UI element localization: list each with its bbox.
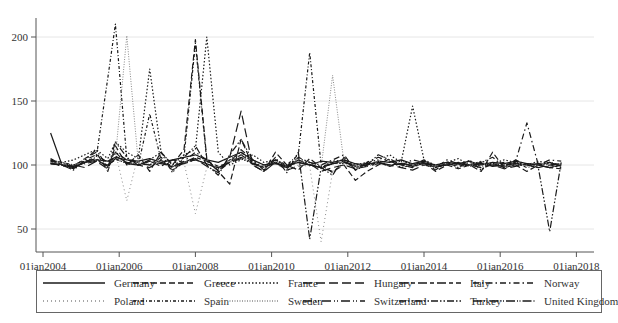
- line-swatch-fine-dot-icon: [217, 296, 279, 306]
- line-chart: 50100150200 01jan200401jan200601jan20080…: [0, 0, 614, 270]
- series-lines: [51, 24, 562, 242]
- line-swatch-sparse-dot-icon: [43, 296, 105, 306]
- x-tick-label: 01jan2006: [96, 260, 143, 270]
- y-axis-ticks: 50100150200: [12, 31, 37, 235]
- line-swatch-long-dash-dot-dot-fine-icon: [473, 296, 535, 306]
- legend: Germany Greece France Hungary Italy Norw…: [36, 270, 602, 313]
- line-swatch-solid-icon: [43, 278, 105, 288]
- x-tick-label: 01jan2016: [477, 260, 524, 270]
- legend-item-poland: Poland: [43, 292, 145, 310]
- legend-item-spain: Spain: [133, 292, 229, 310]
- line-swatch-dot-dash-icon: [133, 296, 195, 306]
- x-axis-ticks: 01jan200401jan200601jan200801jan201001ja…: [20, 252, 600, 270]
- x-tick-label: 01jan2004: [20, 260, 67, 270]
- y-tick-label: 100: [12, 159, 29, 171]
- series-turkey: [51, 139, 562, 239]
- series-france: [51, 37, 562, 168]
- line-swatch-long-dash-icon: [303, 278, 365, 288]
- legend-row-1: Germany Greece France Hungary Italy Norw…: [37, 274, 601, 292]
- line-swatch-long-dash-short-dash-icon: [399, 278, 461, 288]
- line-swatch-dashed-icon: [133, 278, 195, 288]
- legend-item-hungary: Hungary: [303, 274, 413, 292]
- x-tick-label: 01jan2018: [553, 260, 600, 270]
- x-tick-label: 01jan2014: [401, 260, 448, 270]
- y-tick-label: 200: [12, 31, 29, 43]
- legend-label: Norway: [544, 277, 579, 289]
- series-sweden: [51, 36, 562, 168]
- series-poland: [51, 152, 562, 242]
- legend-item-united-kingdom: United Kingdom: [473, 292, 618, 310]
- y-tick-label: 150: [12, 95, 29, 107]
- line-swatch-dotted-icon: [217, 278, 279, 288]
- y-tick-label: 50: [17, 223, 29, 235]
- line-swatch-dash-dot-dot-icon: [399, 296, 461, 306]
- x-tick-label: 01jan2010: [248, 260, 295, 270]
- line-swatch-long-dash-dot-dot-icon: [303, 296, 365, 306]
- legend-label: United Kingdom: [544, 295, 618, 307]
- legend-item-norway: Norway: [473, 274, 579, 292]
- line-swatch-dash-dot-icon: [473, 278, 535, 288]
- x-tick-label: 01jan2012: [325, 260, 371, 270]
- series-spain: [51, 24, 562, 173]
- gridlines: [36, 37, 594, 229]
- legend-row-2: Poland Spain Sweden Switzerland Turkey U…: [37, 292, 601, 310]
- axes: [36, 18, 594, 252]
- x-tick-label: 01jan2008: [172, 260, 219, 270]
